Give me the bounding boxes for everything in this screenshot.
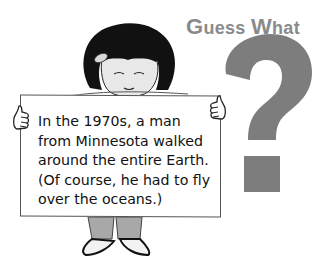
- heading-letter-g: G: [186, 14, 203, 39]
- girl-illustration: [68, 18, 188, 98]
- sign-line-2: from Minnesota walked: [38, 132, 223, 152]
- girl-legs-feet: [80, 217, 160, 267]
- sign-line-4: (Of course, he had to fly: [38, 171, 223, 191]
- sign-text: In the 1970s, a man from Minnesota walke…: [38, 112, 223, 210]
- sign-line-3: around the entire Earth.: [38, 151, 223, 171]
- sign-line-1: In the 1970s, a man: [38, 112, 223, 132]
- sign-line-5: over the oceans.): [38, 190, 223, 210]
- left-thumb-icon: [12, 104, 30, 132]
